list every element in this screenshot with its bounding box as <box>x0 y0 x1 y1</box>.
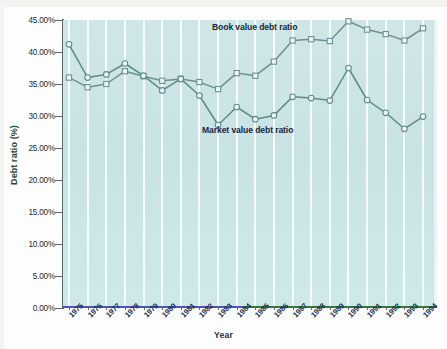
data-point-market-1994 <box>420 114 426 120</box>
data-point-market-1986 <box>271 113 277 119</box>
y-tick-45 <box>55 20 62 21</box>
data-point-market-1989 <box>327 98 333 104</box>
y-tick-label-5: 5.00% <box>3 272 55 281</box>
data-point-market-1987 <box>290 94 296 100</box>
y-axis-labels: 45.00%40.00%35.00%30.00%25.00%20.00%15.0… <box>0 20 55 308</box>
plot-area <box>63 20 437 308</box>
series-layer <box>63 20 437 308</box>
data-point-market-1978 <box>122 61 128 67</box>
x-axis-title: Year <box>0 330 447 340</box>
data-point-market-1984 <box>234 104 240 110</box>
data-point-market-1980 <box>159 88 165 94</box>
data-point-book-1989 <box>327 39 332 44</box>
y-tick-20 <box>55 180 62 181</box>
y-tick-label-25: 25.00% <box>3 144 55 153</box>
y-tick-10 <box>55 244 62 245</box>
y-tick-label-0: 0.00% <box>3 304 55 313</box>
data-point-market-1992 <box>383 110 389 116</box>
data-point-market-1991 <box>364 97 370 103</box>
data-point-market-1975 <box>66 42 72 48</box>
y-tick-15 <box>55 212 62 213</box>
series-label-market-value: Market value debt ratio <box>202 125 293 135</box>
data-point-book-1988 <box>309 37 314 42</box>
data-point-book-1986 <box>271 59 276 64</box>
data-point-book-1982 <box>197 80 202 85</box>
y-tick-label-10: 10.00% <box>3 240 55 249</box>
y-tick-40 <box>55 52 62 53</box>
y-tick-label-20: 20.00% <box>3 176 55 185</box>
y-tick-0 <box>55 308 62 309</box>
data-point-book-1985 <box>253 73 258 78</box>
data-point-book-1994 <box>420 26 425 31</box>
data-point-market-1976 <box>85 75 91 81</box>
data-point-book-1984 <box>234 71 239 76</box>
data-point-book-1992 <box>383 32 388 37</box>
data-point-book-1977 <box>104 81 109 86</box>
data-point-book-1983 <box>216 87 221 92</box>
data-point-market-1979 <box>141 73 147 79</box>
data-point-book-1976 <box>85 85 90 90</box>
data-point-book-1978 <box>122 69 127 74</box>
y-tick-label-30: 30.00% <box>3 112 55 121</box>
y-tick-25 <box>55 148 62 149</box>
data-point-market-1985 <box>253 116 259 122</box>
data-point-book-1987 <box>290 38 295 43</box>
y-tick-label-15: 15.00% <box>3 208 55 217</box>
chart-figure: Debt ratio (%) 45.00%40.00%35.00%30.00%2… <box>0 0 447 349</box>
scan-band-top <box>0 0 447 7</box>
data-point-market-1993 <box>402 126 408 132</box>
data-point-book-1991 <box>365 27 370 32</box>
y-tick-35 <box>55 84 62 85</box>
data-point-market-1988 <box>308 95 314 101</box>
y-tick-5 <box>55 276 62 277</box>
series-label-book-value: Book value debt ratio <box>212 22 297 32</box>
data-point-book-1993 <box>402 38 407 43</box>
y-tick-label-40: 40.00% <box>3 48 55 57</box>
data-point-book-1975 <box>66 75 71 80</box>
data-point-market-1981 <box>178 76 184 82</box>
data-point-book-1980 <box>160 78 165 83</box>
data-point-market-1977 <box>104 72 110 78</box>
data-point-market-1990 <box>346 65 352 71</box>
y-tick-label-35: 35.00% <box>3 80 55 89</box>
figure-caption <box>0 341 447 349</box>
series-line-market-value <box>69 44 423 129</box>
y-tick-label-45: 45.00% <box>3 16 55 25</box>
data-point-book-1990 <box>346 19 351 24</box>
y-tick-30 <box>55 116 62 117</box>
data-point-market-1982 <box>197 93 203 99</box>
